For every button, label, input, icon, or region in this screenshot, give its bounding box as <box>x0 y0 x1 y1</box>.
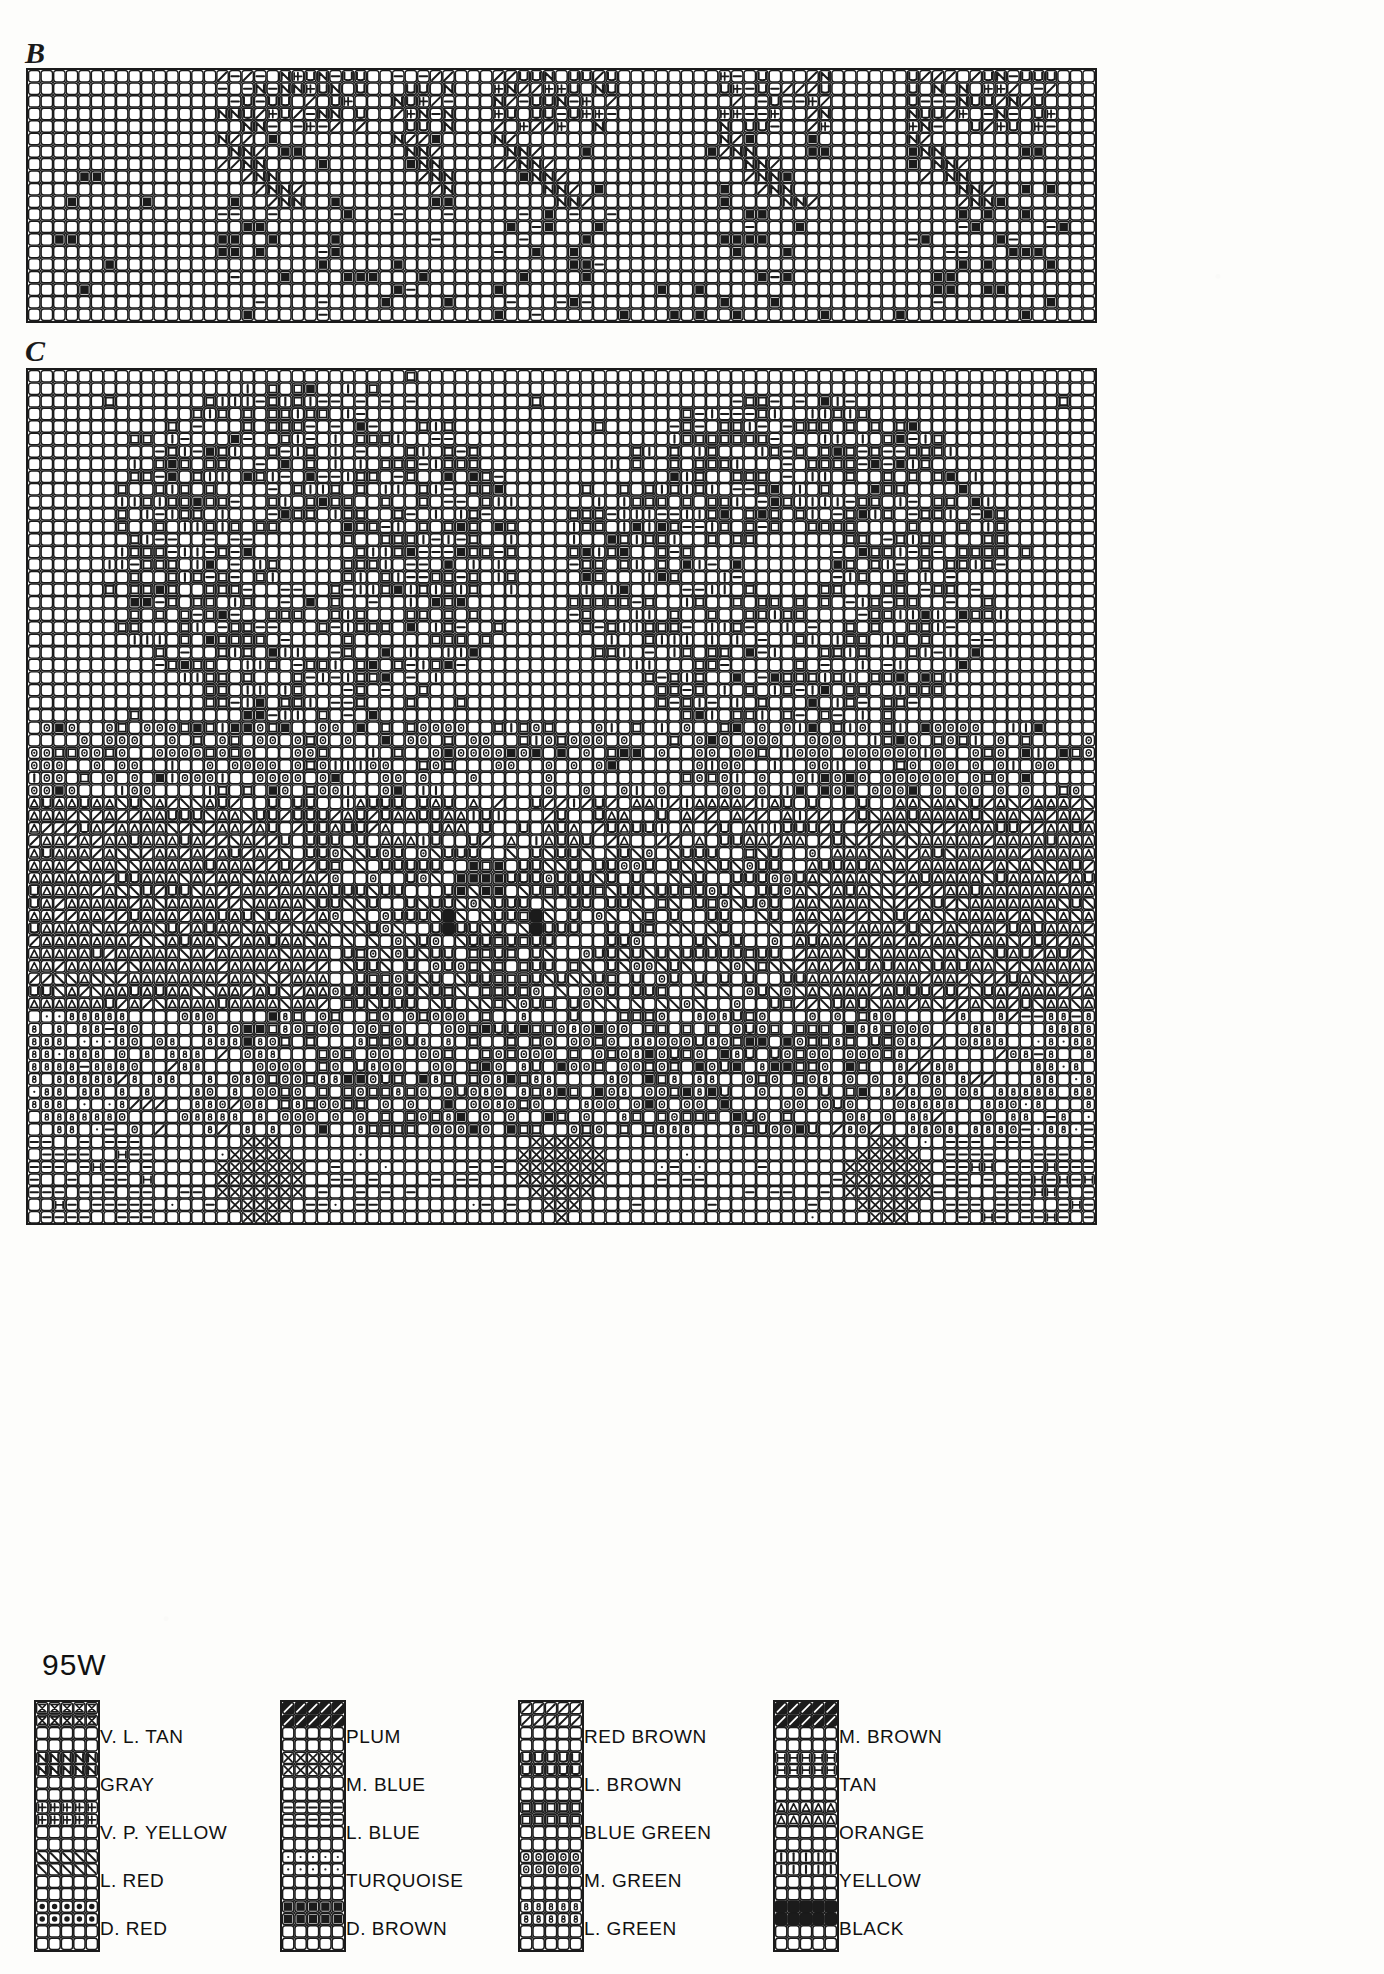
legend-label-orange: ORANGE <box>839 1822 924 1844</box>
legend: V. L. TAN GRAY V. P. YELLOW L. RED D. RE… <box>0 1700 1384 1960</box>
chart-c-grid <box>26 368 1097 1225</box>
pattern-code-label: 95W <box>42 1648 107 1682</box>
legend-label-l-brown: L. BROWN <box>584 1774 682 1796</box>
legend-label-v-p-yellow: V. P. YELLOW <box>100 1822 227 1844</box>
legend-label-d-brown: D. BROWN <box>346 1918 447 1940</box>
legend-label-tan: TAN <box>839 1774 877 1796</box>
legend-label-l-green: L. GREEN <box>584 1918 677 1940</box>
legend-swatch-column-2 <box>518 1700 584 1952</box>
legend-swatch-column-0 <box>34 1700 100 1952</box>
legend-label-m-blue: M. BLUE <box>346 1774 426 1796</box>
legend-label-l-blue: L. BLUE <box>346 1822 420 1844</box>
legend-label-black: BLACK <box>839 1918 904 1940</box>
legend-label-turquoise: TURQUOISE <box>346 1870 463 1892</box>
chart-label-c: C <box>25 334 45 368</box>
chart-label-b: B <box>25 36 45 70</box>
legend-label-blue-green: BLUE GREEN <box>584 1822 711 1844</box>
chart-b-grid <box>26 68 1097 323</box>
legend-label-m-green: M. GREEN <box>584 1870 682 1892</box>
legend-swatch-column-1 <box>280 1700 346 1952</box>
legend-label-l-red: L. RED <box>100 1870 164 1892</box>
legend-label-red-brown: RED BROWN <box>584 1726 707 1748</box>
legend-label-yellow: YELLOW <box>839 1870 921 1892</box>
legend-swatch-column-3 <box>773 1700 839 1952</box>
legend-label-plum: PLUM <box>346 1726 401 1748</box>
legend-label-d-red: D. RED <box>100 1918 167 1940</box>
legend-label-m-brown: M. BROWN <box>839 1726 942 1748</box>
legend-label-v-l-tan: V. L. TAN <box>100 1726 183 1748</box>
legend-label-gray: GRAY <box>100 1774 154 1796</box>
